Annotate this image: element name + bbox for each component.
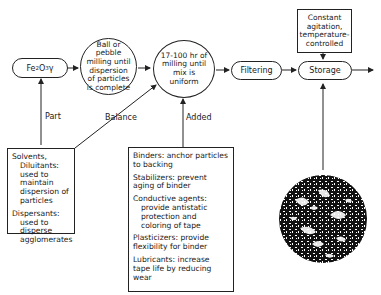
dispersants-head: Dispersants: [12, 209, 59, 218]
storage-node: Storage [298, 61, 352, 80]
long-milling-node: 17-100 hr of milling until mix is unifor… [153, 40, 215, 98]
binders-head: Binders: [133, 151, 164, 160]
fe2o3-gamma: γ [49, 64, 54, 73]
fe2o3-node: Fe2O3 γ [12, 58, 68, 78]
long-milling-label: 17-100 hr of milling until mix is unifor… [160, 52, 208, 86]
solvents-body: Diluitants: used to maintain dispersion … [12, 162, 70, 206]
solvents-box: Solvents, Diluitants: used to maintain d… [7, 148, 75, 234]
part-label: Part [45, 112, 61, 121]
stabilizers-head: Stabilizers: [133, 173, 175, 182]
dispersants-body: used to disperse agglomerates [12, 219, 70, 245]
solvents-item: Solvents, Diluitants: used to maintain d… [12, 153, 70, 206]
balance-label: Balance [105, 113, 137, 122]
storage-condition-box: Constant agitation, temperature-controll… [297, 9, 352, 53]
additives-box: Binders: anchor particles to backing Sta… [128, 147, 234, 292]
fe2o3-text: Fe [26, 64, 35, 73]
lubricants-item: Lubricants: increase tape life by reduci… [133, 256, 229, 282]
conductive-body: provide antistatic protection and colori… [133, 204, 229, 230]
filtering-label: Filtering [240, 66, 272, 75]
binders-item: Binders: anchor particles to backing [133, 152, 229, 170]
lubricants-head: Lubricants: [133, 255, 175, 264]
storage-label: Storage [309, 66, 340, 75]
added-label: Added [186, 113, 212, 122]
filtering-node: Filtering [231, 61, 282, 80]
dispersants-item: Dispersants: used to disperse agglomerat… [12, 210, 70, 245]
ball-milling-label: Ball or pebble milling until dispersion … [85, 41, 132, 93]
plasticizers-head: Plasticizers: [133, 233, 178, 242]
ball-milling-node: Ball or pebble milling until dispersion … [80, 38, 137, 95]
conductive-head: Conductive agents: [133, 194, 207, 203]
stabilizers-item: Stabilizers: prevent aging of binder [133, 174, 229, 192]
plasticizers-item: Plasticizers: provide flexibility for bi… [133, 234, 229, 252]
solvents-head: Solvents, [12, 152, 47, 161]
conductive-item: Conductive agents: provide antistatic pr… [133, 195, 229, 230]
storage-condition-label: Constant agitation, temperature-controll… [300, 14, 350, 48]
